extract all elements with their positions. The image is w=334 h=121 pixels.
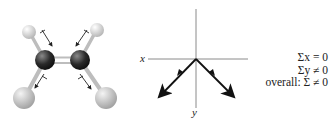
dipole-arrow-h2-c2 bbox=[76, 30, 87, 46]
sum-x-equation: Σx = 0 bbox=[265, 51, 328, 64]
atom-chlorine-left bbox=[13, 87, 35, 109]
atom-chlorine-right bbox=[95, 87, 117, 109]
molecule-model bbox=[13, 23, 117, 109]
atom-hydrogen-left bbox=[22, 25, 36, 39]
y-axis-label: y bbox=[191, 106, 197, 118]
atom-carbon-right bbox=[70, 50, 90, 70]
dipole-arrow-h1-c1 bbox=[42, 30, 52, 46]
atom-carbon-left bbox=[35, 50, 55, 70]
sum-equations: Σx = 0 Σy ≠ 0 overall: Σ ≠ 0 bbox=[265, 51, 328, 89]
vector-left bbox=[160, 59, 196, 96]
sum-y-equation: Σy ≠ 0 bbox=[265, 64, 328, 77]
overall-sum-equation: overall: Σ ≠ 0 bbox=[265, 76, 328, 89]
vector-diagram: x y bbox=[139, 9, 248, 118]
atom-hydrogen-right bbox=[90, 23, 104, 37]
x-axis-label: x bbox=[139, 52, 145, 64]
dipole-cross bbox=[42, 76, 47, 79]
vector-right bbox=[196, 59, 233, 96]
